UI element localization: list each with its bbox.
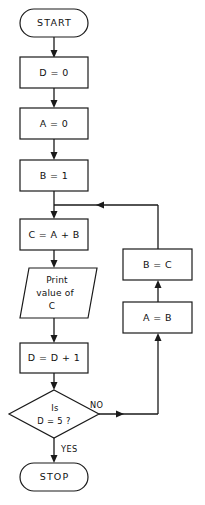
node-compute-c-label: C = A + B [28, 229, 79, 240]
node-stop[interactable]: STOP [20, 463, 88, 491]
connector-init-d-to-init-a [51, 88, 58, 108]
node-print-c-line2: value of [36, 288, 74, 298]
node-print-c-line3: C [49, 301, 55, 311]
node-assign-a-b-label: A = B [143, 312, 172, 323]
node-start-label: START [37, 17, 72, 28]
connector-start-to-init-d [51, 37, 58, 58]
connector-compute-c-to-print [51, 250, 58, 268]
edge-label-yes: YES [60, 444, 78, 454]
connector-loopback-to-trunk [54, 202, 158, 209]
flowchart-canvas: START D = 0 A = 0 B = 1 C = A + B Print … [0, 0, 205, 505]
connector-print-to-increment-d [51, 318, 58, 343]
node-decision-line2: D = 5 ? [37, 416, 70, 426]
edge-label-no: NO [90, 400, 103, 410]
connector-decision-no-branch [99, 333, 162, 418]
node-init-d-label: D = 0 [39, 67, 68, 78]
connector-assign-a-b-to-assign-b-c [155, 280, 162, 302]
node-start[interactable]: START [20, 9, 88, 37]
node-assign-b-c[interactable]: B = C [123, 249, 192, 280]
node-init-a-label: A = 0 [40, 118, 69, 129]
node-init-d[interactable]: D = 0 [20, 57, 88, 88]
flowchart-svg: START D = 0 A = 0 B = 1 C = A + B Print … [0, 0, 205, 505]
node-print-c-line1: Print [46, 275, 68, 285]
node-increment-d-label: D = D + 1 [28, 352, 80, 363]
node-stop-label: STOP [40, 471, 69, 482]
node-init-b[interactable]: B = 1 [20, 160, 88, 191]
node-increment-d[interactable]: D = D + 1 [20, 343, 88, 373]
node-init-b-label: B = 1 [40, 170, 69, 181]
node-assign-b-c-label: B = C [143, 259, 172, 270]
node-compute-c[interactable]: C = A + B [20, 219, 88, 250]
node-init-a[interactable]: A = 0 [20, 108, 88, 139]
node-assign-a-b[interactable]: A = B [123, 302, 192, 333]
connector-init-a-to-init-b [51, 139, 58, 160]
node-print-c[interactable]: Print value of C [20, 268, 97, 318]
node-decision[interactable]: Is D = 5 ? [9, 390, 99, 438]
connector-increment-d-to-decision [51, 373, 58, 390]
connector-decision-yes-to-stop [51, 438, 58, 463]
node-decision-line1: Is [51, 403, 58, 413]
